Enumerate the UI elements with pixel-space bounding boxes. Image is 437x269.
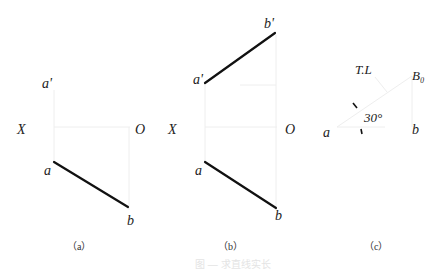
panel-b: a' b' X O a b （b） (167, 16, 295, 252)
label-b: b (275, 208, 282, 223)
label-b-prime: b' (264, 16, 275, 31)
label-b: b (127, 213, 134, 228)
label-a-prime: a' (42, 76, 53, 91)
angle-tick-lower (361, 129, 362, 134)
label-a: a (323, 125, 330, 140)
caption-c: （c） (364, 241, 388, 252)
tl-leader (375, 77, 387, 92)
label-o: O (285, 122, 295, 137)
angle-tick-upper (353, 103, 357, 108)
label-true-length: T.L (355, 62, 372, 77)
line-ab-front-view (205, 33, 275, 83)
figure-caption: 图 — 求直线实长 (195, 258, 271, 269)
label-a: a (44, 163, 51, 178)
label-a-prime: a' (193, 72, 204, 87)
label-x: X (16, 122, 26, 137)
line-ab-top-view (205, 162, 276, 208)
diagram-canvas: a' X O a b （a） a' b' X O a b （b） T.L B₀ … (0, 0, 437, 269)
line-ab-top-view (54, 162, 128, 207)
label-a: a (195, 163, 202, 178)
panel-c: T.L B₀ 30° a b （c） (323, 62, 424, 252)
label-b0: B₀ (412, 68, 424, 83)
caption-a: （a） (67, 241, 91, 252)
panel-a: a' X O a b （a） (16, 76, 145, 252)
label-o: O (135, 122, 145, 137)
caption-b: （b） (218, 241, 243, 252)
label-angle: 30° (363, 110, 382, 125)
label-b: b (412, 122, 419, 137)
label-x: X (167, 122, 177, 137)
